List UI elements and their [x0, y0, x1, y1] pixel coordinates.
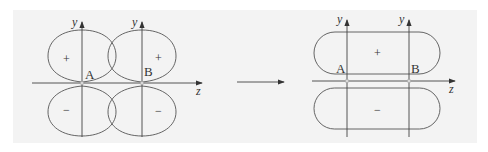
nucleus-label-a-right: A: [336, 61, 346, 76]
y-label-a-right: y: [336, 12, 343, 26]
y-label-b: y: [131, 15, 138, 29]
z-label: z: [195, 84, 201, 98]
sign-lower-a: −: [63, 103, 70, 117]
sign-upper-a: +: [63, 52, 70, 66]
sign-upper-right: +: [374, 46, 381, 60]
nucleus-a-right: [345, 79, 349, 83]
sign-upper-b: +: [155, 51, 162, 65]
orbital-diagram: y y z A B + + − − y y z A B + −: [0, 0, 488, 152]
nucleus-label-b: B: [144, 64, 153, 79]
y-label-b-right: y: [398, 12, 405, 26]
z-label-right: z: [448, 82, 454, 96]
y-label-a: y: [71, 15, 78, 29]
sign-lower-right: −: [374, 103, 381, 117]
nucleus-b: [140, 81, 144, 85]
nucleus-b-right: [407, 79, 411, 83]
sign-lower-b: −: [155, 104, 162, 118]
nucleus-label-a: A: [85, 67, 95, 82]
nucleus-label-b-right: B: [411, 61, 420, 76]
nucleus-a: [80, 81, 84, 85]
